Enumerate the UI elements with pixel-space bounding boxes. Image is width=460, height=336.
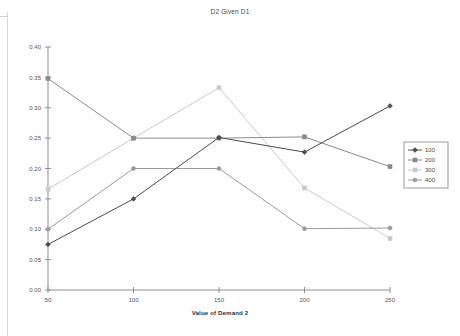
series-line-300	[48, 88, 390, 239]
data-point-200	[46, 77, 50, 81]
data-point-300	[217, 86, 221, 90]
data-point-400	[217, 167, 221, 171]
legend-label-100: 100	[425, 147, 436, 153]
legend-label-200: 200	[425, 157, 436, 163]
data-point-100	[388, 104, 393, 109]
chart-page: D2 Given D1 0.000.050.100.150.200.250.30…	[0, 0, 460, 336]
series-line-100	[48, 106, 390, 245]
y-tick-label: 0.25	[29, 135, 41, 141]
series-400	[46, 167, 392, 232]
data-point-400	[132, 167, 136, 171]
x-axis-title: Value of Demand 2	[0, 309, 440, 316]
data-point-300	[388, 236, 392, 240]
x-tick-label: 150	[214, 297, 225, 303]
x-tick-label: 50	[45, 297, 52, 303]
data-point-300	[303, 186, 307, 190]
y-tick-label: 0.20	[29, 166, 41, 172]
legend-swatch-marker-300	[413, 168, 417, 172]
legend-swatch-marker-400	[413, 178, 417, 182]
line-chart-plot: 0.000.050.100.150.200.250.300.350.405010…	[0, 0, 460, 336]
x-axis-ticks: 50100150200250	[45, 287, 396, 303]
data-point-400	[46, 227, 50, 231]
legend-label-400: 400	[425, 177, 436, 183]
y-tick-label: 0.35	[29, 75, 41, 81]
series-200	[46, 77, 392, 169]
series-100	[46, 104, 393, 247]
y-tick-label: 0.10	[29, 226, 41, 232]
data-point-300	[46, 187, 50, 191]
legend-swatch-marker-200	[413, 158, 417, 162]
data-point-200	[303, 135, 307, 139]
legend-label-300: 300	[425, 167, 436, 173]
y-tick-label: 0.30	[29, 105, 41, 111]
data-point-400	[388, 226, 392, 230]
data-point-100	[46, 242, 51, 247]
x-tick-label: 100	[128, 297, 139, 303]
series-line-400	[48, 169, 390, 230]
y-tick-label: 0.15	[29, 196, 41, 202]
y-tick-label: 0.05	[29, 257, 41, 263]
x-tick-label: 250	[385, 297, 396, 303]
series-line-200	[48, 79, 390, 167]
x-tick-label: 200	[299, 297, 310, 303]
y-tick-label: 0.40	[29, 44, 41, 50]
data-point-200	[388, 165, 392, 169]
y-tick-label: 0.00	[29, 287, 41, 293]
data-point-200	[132, 136, 136, 140]
series-300	[46, 86, 392, 241]
legend: 100200300400	[404, 142, 448, 188]
data-point-400	[303, 227, 307, 231]
data-point-100	[302, 150, 307, 155]
